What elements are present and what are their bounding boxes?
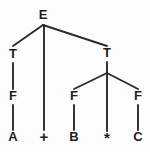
tree-edge-branch-to-F_mid [74,73,107,89]
tree-node-F_right: F [134,88,142,103]
parse-tree-canvas: ETTFFFA+B*C [0,0,150,152]
tree-node-T_left: T [9,46,17,61]
tree-node-B: B [69,129,78,144]
tree-node-group: ETTFFFA+B*C [8,7,143,146]
parse-tree-figure: ETTFFFA+B*C [0,0,150,152]
tree-node-T_right: T [103,45,111,60]
tree-node-C: C [133,129,143,144]
tree-node-plus: + [40,128,49,145]
tree-edge-E-to-T_right [43,25,107,46]
tree-node-A: A [8,129,18,144]
tree-node-F_left: F [9,88,17,103]
tree-edge-group [13,25,138,131]
tree-node-star: * [104,129,110,146]
tree-edge-E-to-T_left [13,25,43,46]
tree-edge-branch-to-F_right [107,73,138,89]
tree-node-F_mid: F [70,88,78,103]
tree-node-E: E [39,7,48,22]
